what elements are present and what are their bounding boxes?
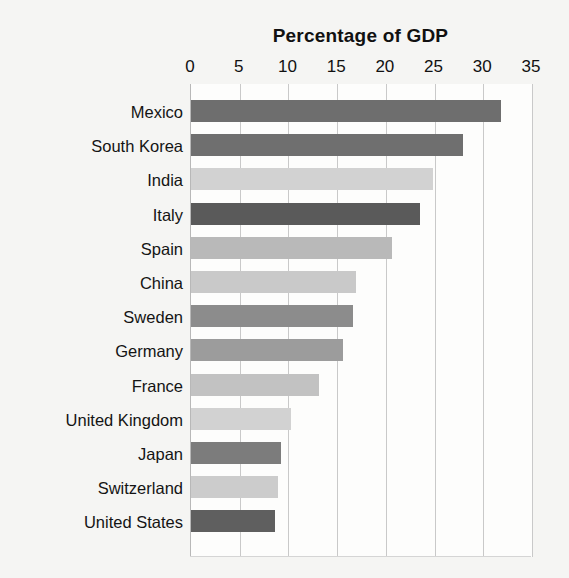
category-label-south-korea: South Korea	[0, 135, 183, 157]
bar-chart: Percentage of GDP 05101520253035 MexicoS…	[0, 0, 569, 578]
category-label-switzerland: Switzerland	[0, 477, 183, 499]
bars-layer	[191, 84, 532, 557]
plot-area	[190, 84, 532, 557]
x-tick-label-10: 10	[278, 57, 297, 77]
category-label-sweden: Sweden	[0, 306, 183, 328]
bar-spain	[191, 237, 392, 259]
category-label-italy: Italy	[0, 204, 183, 226]
category-label-germany: Germany	[0, 340, 183, 362]
category-label-france: France	[0, 375, 183, 397]
bar-sweden	[191, 305, 353, 327]
x-tick-label-20: 20	[375, 57, 394, 77]
x-tick-label-0: 0	[185, 57, 194, 77]
bar-china	[191, 271, 356, 293]
category-label-india: India	[0, 169, 183, 191]
bar-switzerland	[191, 476, 278, 498]
category-axis-labels: MexicoSouth KoreaIndiaItalySpainChinaSwe…	[0, 84, 183, 557]
bar-italy	[191, 203, 420, 225]
category-label-united-kingdom: United Kingdom	[0, 409, 183, 431]
bar-united-states	[191, 510, 275, 532]
category-label-united-states: United States	[0, 511, 183, 533]
bar-germany	[191, 339, 343, 361]
category-label-spain: Spain	[0, 238, 183, 260]
bar-united-kingdom	[191, 408, 291, 430]
category-label-mexico: Mexico	[0, 101, 183, 123]
x-tick-label-15: 15	[327, 57, 346, 77]
x-tick-label-35: 35	[522, 57, 541, 77]
category-label-japan: Japan	[0, 443, 183, 465]
bar-france	[191, 374, 319, 396]
bar-mexico	[191, 100, 501, 122]
x-tick-label-30: 30	[473, 57, 492, 77]
bar-japan	[191, 442, 281, 464]
plot-bottom-edge	[190, 556, 531, 557]
x-tick-label-5: 5	[234, 57, 243, 77]
x-axis-tick-labels: 05101520253035	[0, 57, 569, 81]
gridline-35	[532, 84, 533, 557]
bar-south-korea	[191, 134, 463, 156]
category-label-china: China	[0, 272, 183, 294]
bar-india	[191, 168, 433, 190]
x-tick-label-25: 25	[424, 57, 443, 77]
chart-title: Percentage of GDP	[190, 25, 531, 47]
